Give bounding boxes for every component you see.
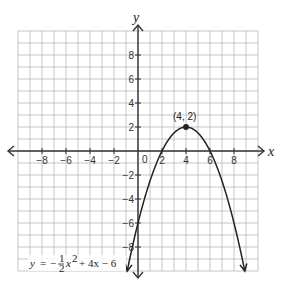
equation-y: y (29, 257, 35, 269)
y-axis-title: y (131, 10, 140, 25)
equation-label: y = − 1 2 x 2 + 4x − 6 (28, 252, 126, 274)
equation-x: x (65, 257, 71, 269)
svg-text:2: 2 (128, 122, 134, 133)
svg-text:−6: −6 (123, 218, 135, 229)
svg-text:−2: −2 (108, 155, 120, 166)
equation-rest: + 4x − 6 (79, 257, 117, 269)
svg-text:−2: −2 (123, 170, 135, 181)
origin-label: 0 (142, 154, 148, 165)
svg-text:4: 4 (183, 155, 189, 166)
equation-equals: = (40, 257, 46, 269)
svg-text:−4: −4 (123, 194, 135, 205)
vertex-point (183, 124, 189, 130)
parabola-graph: −8−6−4−224688642−2−4−6−8 x y 0 (4, 2) y … (0, 0, 284, 291)
svg-text:6: 6 (128, 74, 134, 85)
svg-text:−8: −8 (36, 155, 48, 166)
equation-exponent: 2 (72, 252, 78, 264)
svg-text:4: 4 (128, 98, 134, 109)
x-axis-title: x (267, 144, 275, 159)
svg-text:8: 8 (128, 50, 134, 61)
svg-text:8: 8 (231, 155, 237, 166)
svg-text:−6: −6 (60, 155, 72, 166)
axes (8, 25, 264, 278)
equation-denominator: 2 (59, 262, 65, 274)
equation-minus: − (50, 257, 56, 269)
vertex-label: (4, 2) (173, 111, 196, 122)
svg-text:−4: −4 (84, 155, 96, 166)
